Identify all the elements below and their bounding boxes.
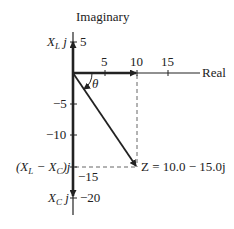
z-label: Z = 10.0 − 15.0j (141, 159, 226, 174)
imag-tick-label-5: 5 (80, 34, 87, 49)
theta-arc (84, 73, 92, 89)
z-vector (73, 73, 136, 166)
real-tick-label-10: 10 (130, 54, 143, 69)
imag-tick-label-neg5: −5 (53, 96, 67, 111)
xl-label: XL j (46, 34, 67, 51)
real-tick-label-15: 15 (161, 54, 174, 69)
imag-tick-label-neg15: −15 (78, 169, 98, 184)
impedance-diagram: Imaginary Real 5 10 15 5 −5 −10 −15 −20 … (0, 0, 234, 229)
real-axis-label: Real (202, 65, 226, 80)
imag-tick-label-neg10: −10 (46, 127, 66, 142)
imaginary-axis-label: Imaginary (76, 9, 130, 24)
xc-label: XC j (47, 190, 69, 207)
xl-minus-xc-label: (XL − XC)j (16, 159, 71, 176)
theta-label: θ (92, 76, 99, 91)
real-tick-label-5: 5 (101, 54, 108, 69)
imag-tick-label-neg20: −20 (80, 190, 100, 205)
